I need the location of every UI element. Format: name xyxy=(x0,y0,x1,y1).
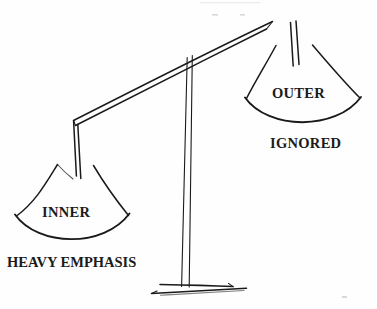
left-pan-assembly xyxy=(15,121,130,239)
left-pan-right-edge xyxy=(94,166,129,216)
balance-beam xyxy=(74,22,273,126)
label-inner: INNER xyxy=(42,205,90,220)
right-pan-strings xyxy=(291,21,300,66)
diagram-canvas: INNER OUTER IGNORED HEAVY EMPHASIS xyxy=(0,0,377,309)
left-pan-strings xyxy=(74,121,81,179)
label-heavy-emphasis: HEAVY EMPHASIS xyxy=(7,255,136,270)
center-pillar xyxy=(182,56,193,288)
right-pan-assembly xyxy=(245,21,361,122)
label-ignored: IGNORED xyxy=(270,136,341,151)
base-plate xyxy=(152,283,247,295)
label-outer: OUTER xyxy=(272,86,325,101)
